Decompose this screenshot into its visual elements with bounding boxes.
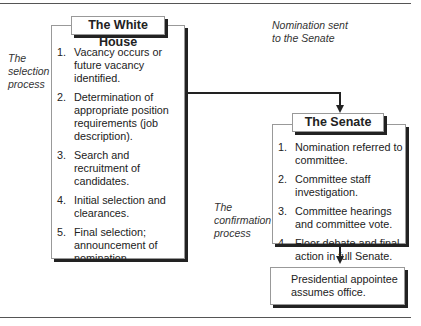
arrow-down-icon: [336, 105, 344, 113]
connector-horizontal: [186, 92, 340, 94]
final-box: Presidential appointee assumes office.: [270, 267, 405, 305]
step-item: 3.Search and recruitment of candidates.: [57, 149, 181, 188]
senate-box: 1.Nomination referred to committee. 2.Co…: [272, 124, 406, 244]
selection-process-label: The selection process: [8, 52, 49, 91]
white-house-box: 1.Vacancy occurs or future vacancy ident…: [51, 25, 185, 259]
connector-label: Nomination sent to the Senate: [272, 19, 348, 45]
step-item: 4.Initial selection and clearances.: [57, 194, 181, 220]
step-item: 3.Committee hearings and committee vote.: [278, 205, 403, 231]
connector-vertical: [339, 92, 341, 106]
white-house-steps: 1.Vacancy occurs or future vacancy ident…: [57, 46, 181, 271]
senate-steps: 1.Nomination referred to committee. 2.Co…: [278, 141, 403, 269]
arrow-down-icon: [336, 256, 344, 264]
final-text: Presidential appointee assumes office.: [291, 273, 399, 299]
step-item: 2.Committee staff investigation.: [278, 173, 403, 199]
senate-title: The Senate: [292, 113, 384, 132]
step-item: 5.Final selection; announcement of nomin…: [57, 226, 181, 265]
step-item: 1.Vacancy occurs or future vacancy ident…: [57, 46, 181, 85]
step-item: 2.Determination of appropriate position …: [57, 91, 181, 143]
top-rule: [0, 3, 411, 4]
white-house-title: The White House: [71, 16, 165, 35]
confirmation-process-label: The confirmation process: [214, 201, 271, 240]
bottom-rule: [0, 317, 411, 318]
step-item: 1.Nomination referred to committee.: [278, 141, 403, 167]
